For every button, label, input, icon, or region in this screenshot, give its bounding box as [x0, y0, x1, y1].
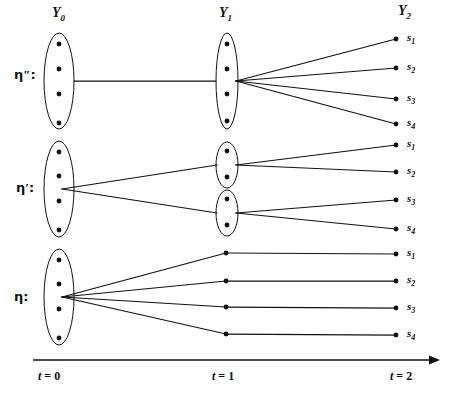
- partition-tree-svg: [0, 0, 453, 397]
- terminal-dot: [394, 66, 399, 71]
- state-dot: [224, 251, 229, 256]
- state-dot: [57, 228, 62, 233]
- ellipses-layer: [44, 33, 238, 345]
- edge-line: [226, 334, 396, 335]
- terminal-dot: [394, 252, 399, 257]
- terminal-state-label: s4: [407, 117, 415, 131]
- terminal-state-label: s2: [407, 61, 415, 75]
- terminal-state-label: s3: [407, 193, 415, 207]
- edge-line: [236, 81, 396, 99]
- time-tick-label: t = 2: [390, 370, 412, 382]
- column-header-Y2: Y2: [398, 4, 411, 21]
- time-tick-label: t = 0: [38, 370, 60, 382]
- partition-ellipse: [216, 33, 238, 129]
- state-dot: [225, 67, 230, 72]
- state-dot: [225, 223, 230, 228]
- terminal-state-label: s3: [407, 92, 415, 106]
- state-dot: [57, 282, 62, 287]
- terminal-state-label: s4: [407, 222, 415, 236]
- edge-line: [62, 165, 217, 189]
- state-dot: [57, 150, 62, 155]
- terminal-dot: [394, 333, 399, 338]
- terminal-dot: [394, 97, 399, 102]
- state-dot: [225, 42, 230, 47]
- edge-line: [236, 213, 396, 229]
- partition-ellipse: [44, 141, 74, 237]
- state-dot: [225, 92, 230, 97]
- terminal-dot: [394, 143, 399, 148]
- terminal-state-label: s3: [407, 301, 415, 315]
- row-label-eta-double-prime: η″:: [14, 68, 36, 81]
- terminal-state-label: s1: [407, 138, 415, 152]
- terminal-state-label: s4: [407, 328, 415, 342]
- edge-line: [236, 81, 396, 124]
- state-dot: [57, 121, 62, 126]
- state-dot: [225, 175, 230, 180]
- terminal-dot: [394, 37, 399, 42]
- state-dot: [57, 199, 62, 204]
- partition-ellipse: [44, 249, 74, 345]
- terminal-state-label: s2: [407, 274, 415, 288]
- state-dot: [225, 197, 230, 202]
- state-dot: [225, 149, 230, 154]
- column-header-Y0: Y0: [52, 6, 65, 23]
- edge-line: [236, 165, 396, 172]
- state-dot: [57, 258, 62, 263]
- terminal-state-label: s2: [407, 165, 415, 179]
- state-dot: [224, 279, 229, 284]
- diagram-canvas: s1s2s3s4s1s2s3s4s1s2s3s4Y0Y1Y2η″:η′:η:t …: [0, 0, 453, 397]
- column-header-Y1: Y1: [219, 6, 232, 23]
- time-tick-label: t = 1: [212, 370, 234, 382]
- partition-ellipse: [44, 33, 74, 129]
- terminal-dot: [394, 170, 399, 175]
- state-dot: [57, 336, 62, 341]
- terminal-dot: [394, 306, 399, 311]
- axis-arrowhead: [429, 356, 440, 365]
- state-dot: [57, 92, 62, 97]
- terminal-dot: [394, 279, 399, 284]
- terminal-dot: [394, 122, 399, 127]
- terminal-state-label: s1: [407, 32, 415, 46]
- edge-line: [236, 145, 396, 165]
- state-dot: [57, 67, 62, 72]
- row-label-eta: η:: [14, 290, 28, 303]
- state-dot: [57, 42, 62, 47]
- state-dot: [224, 305, 229, 310]
- terminal-dot: [394, 227, 399, 232]
- edge-line: [236, 200, 396, 213]
- state-dot: [57, 307, 62, 312]
- terminal-dot: [394, 198, 399, 203]
- edge-line: [226, 307, 396, 308]
- terminal-state-label: s1: [407, 247, 415, 261]
- state-dot: [225, 119, 230, 124]
- edge-line: [62, 189, 217, 213]
- edge-line: [62, 253, 226, 297]
- state-dot: [57, 174, 62, 179]
- edge-line: [62, 281, 226, 297]
- row-label-eta-prime: η′:: [16, 181, 34, 194]
- time-axis-layer: [33, 356, 440, 365]
- edge-line: [226, 253, 396, 254]
- state-dot: [224, 332, 229, 337]
